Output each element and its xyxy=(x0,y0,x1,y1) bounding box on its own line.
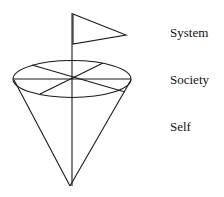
cone-left-side xyxy=(14,80,70,186)
label-self: Self xyxy=(170,120,191,133)
flag-icon xyxy=(73,14,126,44)
label-system: System xyxy=(170,26,208,39)
cone-diagram: System Society Self xyxy=(0,0,224,197)
label-society: Society xyxy=(170,73,209,86)
cone-right-side xyxy=(70,80,131,186)
